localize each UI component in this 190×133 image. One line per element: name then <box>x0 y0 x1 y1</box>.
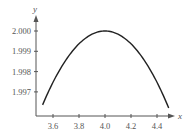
y-tick-label: 1.999 <box>12 46 31 56</box>
x-axis: x 3.63.84.04.24.4 <box>36 111 182 131</box>
chart: y 1.9971.9981.9992.000 x 3.63.84.04.24.4 <box>0 0 190 133</box>
y-tick-label: 1.998 <box>12 67 31 77</box>
y-axis-arrow-icon <box>34 15 39 22</box>
x-tick-label: 3.8 <box>74 121 85 131</box>
x-axis-label: x <box>177 111 182 121</box>
x-tick-label: 4.2 <box>126 121 137 131</box>
x-tick-label: 4.4 <box>152 121 163 131</box>
y-tick-label: 2.000 <box>12 26 31 36</box>
y-axis: y 1.9971.9981.9992.000 <box>12 4 39 116</box>
y-axis-label: y <box>32 4 37 14</box>
x-tick-label: 4.0 <box>100 121 111 131</box>
x-axis-arrow-icon <box>168 114 175 119</box>
data-curve <box>43 31 169 108</box>
x-tick-label: 3.6 <box>48 121 59 131</box>
y-tick-label: 1.997 <box>12 87 31 97</box>
